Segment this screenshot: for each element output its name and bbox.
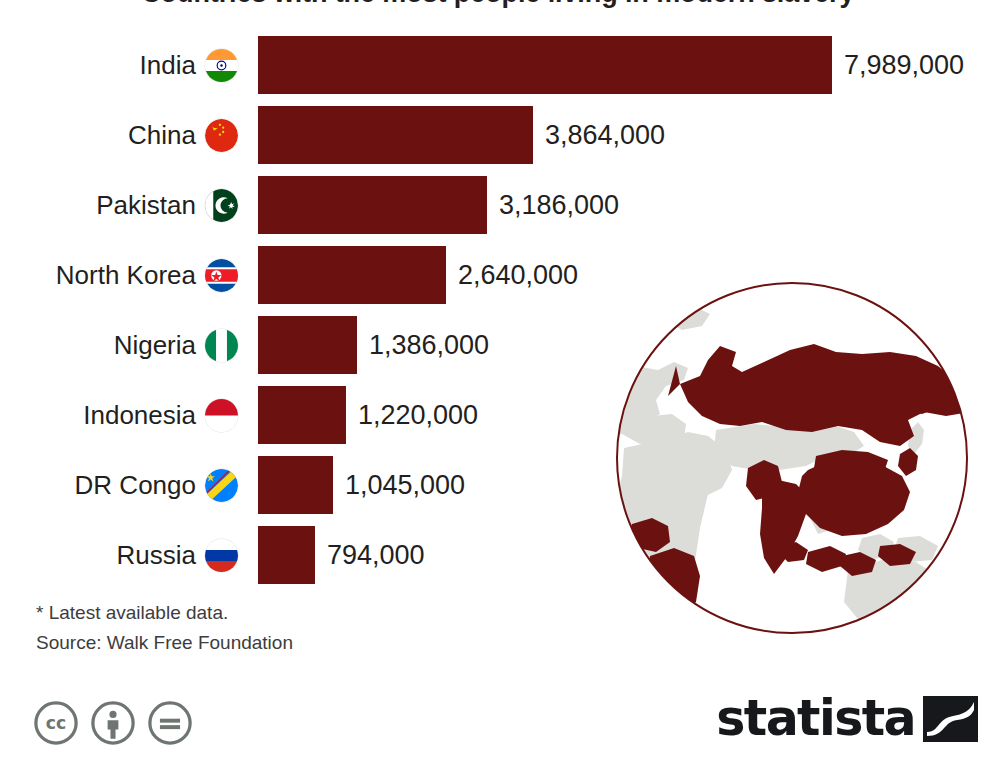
bar (258, 316, 357, 374)
cc-by-icon[interactable] (90, 700, 136, 746)
svg-text:cc: cc (46, 713, 66, 733)
page-title: Countries with the most people living in… (0, 0, 1006, 9)
row-label-china: China (128, 106, 238, 164)
chart-row: India 7,989,000 (0, 36, 1006, 106)
bar (258, 36, 832, 94)
flag-pakistan-icon (205, 189, 238, 222)
country-name: North Korea (56, 262, 196, 288)
row-label-north-korea: North Korea (56, 246, 238, 304)
flag-dr-congo-icon (205, 469, 238, 502)
bar-value-label: 794,000 (315, 526, 425, 584)
bar-value-label: 7,989,000 (832, 36, 964, 94)
bar-value-label: 1,045,000 (333, 456, 465, 514)
flag-north-korea-icon (205, 259, 238, 292)
bar (258, 526, 315, 584)
row-label-nigeria: Nigeria (114, 316, 238, 374)
bar-value-label: 1,386,000 (357, 316, 489, 374)
bar (258, 176, 487, 234)
bar (258, 386, 346, 444)
chart-footnotes: * Latest available data. Source: Walk Fr… (36, 598, 293, 658)
row-label-russia: Russia (117, 526, 238, 584)
chart-row: Pakistan 3,186,000 (0, 176, 1006, 246)
creative-commons-badges[interactable]: cc (33, 700, 193, 746)
statista-wordmark: statista (716, 694, 915, 743)
row-label-pakistan: Pakistan (96, 176, 238, 234)
country-name: Indonesia (83, 402, 196, 428)
country-name: India (140, 52, 196, 78)
country-name: Pakistan (96, 192, 196, 218)
country-name: DR Congo (75, 472, 196, 498)
chart-row: China 3,864,000 (0, 106, 1006, 176)
bar-value-label: 1,220,000 (346, 386, 478, 444)
source-text: Source: Walk Free Foundation (36, 628, 293, 658)
country-name: China (128, 122, 196, 148)
flag-russia-icon (205, 539, 238, 572)
bar (258, 456, 333, 514)
bar-value-label: 3,864,000 (533, 106, 665, 164)
row-label-indonesia: Indonesia (83, 386, 238, 444)
bar (258, 106, 533, 164)
bar-value-label: 2,640,000 (446, 246, 578, 304)
bar (258, 246, 446, 304)
row-label-dr-congo: DR Congo (75, 456, 238, 514)
flag-nigeria-icon (205, 329, 238, 362)
statista-logo[interactable]: statista (716, 694, 978, 743)
country-name: Nigeria (114, 332, 196, 358)
flag-indonesia-icon (205, 399, 238, 432)
world-globe-illustration (612, 280, 972, 640)
flag-india-icon (205, 49, 238, 82)
row-label-india: India (140, 36, 238, 94)
bar-value-label: 3,186,000 (487, 176, 619, 234)
statista-swoosh-icon (923, 696, 978, 742)
footnote-text: * Latest available data. (36, 598, 293, 628)
cc-icon[interactable]: cc (33, 700, 79, 746)
country-name: Russia (117, 542, 196, 568)
cc-nd-icon[interactable] (147, 700, 193, 746)
globe-svg (612, 280, 972, 640)
flag-china-icon (205, 119, 238, 152)
